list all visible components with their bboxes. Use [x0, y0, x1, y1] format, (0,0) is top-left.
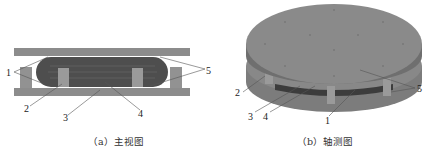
label-1: 1 — [325, 115, 330, 126]
top-disk-surface — [246, 4, 422, 84]
inner-block-left — [58, 68, 69, 87]
outer-block-left — [20, 67, 32, 88]
axonometric-view-drawing: 2 3 4 1 5 — [215, 0, 430, 152]
label-5: 5 — [417, 83, 422, 94]
caption-axonometric-view: （b）轴测图 — [297, 134, 353, 148]
front-view-drawing: 1 2 3 4 5 — [0, 0, 215, 152]
label-4: 4 — [138, 108, 143, 119]
label-3: 3 — [63, 112, 68, 123]
label-5: 5 — [206, 65, 211, 76]
label-3: 3 — [248, 111, 253, 122]
post-2 — [327, 86, 335, 104]
bottom-plate — [14, 88, 190, 96]
caption-front-view: （a）主视图 — [88, 134, 144, 148]
axonometric-view-panel: 2 3 4 1 5 （b）轴测图 — [215, 0, 430, 152]
label-2: 2 — [24, 103, 29, 114]
top-plate — [14, 48, 190, 56]
label-4: 4 — [263, 111, 268, 122]
post-3 — [383, 78, 391, 96]
outer-block-right — [170, 67, 182, 88]
label-2: 2 — [235, 87, 240, 98]
label-1: 1 — [6, 67, 11, 78]
inner-block-right — [132, 68, 143, 87]
front-view-panel: 1 2 3 4 5 （a）主视图 — [0, 0, 215, 152]
